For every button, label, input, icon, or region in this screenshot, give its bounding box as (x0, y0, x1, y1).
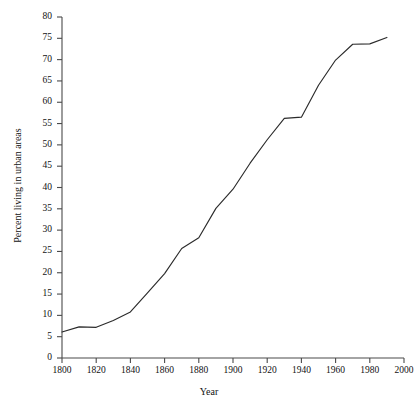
y-tick-label-25: 25 (26, 246, 52, 256)
x-tick-label-2000: 2000 (384, 366, 418, 376)
y-tick-label-60: 60 (26, 97, 52, 107)
y-tick-label-70: 70 (26, 55, 52, 65)
y-tick-label-20: 20 (26, 268, 52, 278)
y-tick-label-35: 35 (26, 204, 52, 214)
x-axis-ticks (62, 358, 404, 363)
y-tick-label-75: 75 (26, 33, 52, 43)
x-axis-title: Year (0, 386, 418, 397)
y-tick-label-80: 80 (26, 12, 52, 22)
y-tick-label-15: 15 (26, 289, 52, 299)
y-tick-label-10: 10 (26, 310, 52, 320)
y-tick-label-5: 5 (26, 332, 52, 342)
chart-figure: 05101520253035404550556065707580 1800182… (0, 0, 418, 406)
y-tick-label-0: 0 (26, 353, 52, 363)
y-tick-label-55: 55 (26, 119, 52, 129)
y-axis-title: Percent living in urban areas (12, 96, 23, 276)
data-series-line (62, 37, 387, 332)
y-tick-label-45: 45 (26, 161, 52, 171)
y-tick-label-65: 65 (26, 76, 52, 86)
y-tick-label-50: 50 (26, 140, 52, 150)
y-tick-label-40: 40 (26, 183, 52, 193)
y-tick-label-30: 30 (26, 225, 52, 235)
plot-canvas (0, 0, 418, 406)
y-axis-ticks (57, 17, 62, 358)
